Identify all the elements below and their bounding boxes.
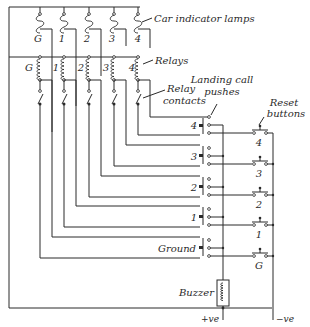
ground-label: Ground (158, 243, 196, 254)
relay-contact-1-switch-icon (62, 80, 67, 227)
negative-terminal-label: −ve (276, 314, 294, 324)
buzzer-label: Buzzer (178, 287, 215, 298)
landing-push-1[interactable] (199, 207, 252, 226)
lamp-label: G (34, 33, 42, 44)
positive-bus (217, 125, 229, 320)
landing-call-label-line2: pushes (204, 86, 239, 97)
relay-3-coil-icon (111, 56, 126, 82)
push-label: 3 (191, 151, 197, 162)
relay-4-coil-icon (135, 56, 150, 82)
relay-label: 2 (77, 62, 84, 73)
reset-label: 2 (255, 199, 262, 210)
top-bus (9, 7, 272, 308)
reset-button-1[interactable] (252, 217, 273, 227)
relay-2-coil-icon (86, 56, 101, 82)
push-label: 4 (190, 120, 197, 131)
reset-buttons-label-line1: Reset (269, 97, 299, 108)
relay-label: G (25, 62, 33, 73)
landing-push-2[interactable] (199, 177, 252, 196)
relays-label: Relays (154, 55, 188, 66)
relay-g-coil-icon (37, 56, 52, 82)
push-label: 1 (191, 212, 197, 223)
reset-buttons (252, 125, 274, 320)
landing-push-ground[interactable] (199, 238, 252, 257)
relay-label: 3 (103, 62, 109, 73)
landing-push-4[interactable] (199, 116, 252, 135)
relay-label: 4 (128, 62, 135, 73)
reset-label: 4 (255, 137, 262, 148)
positive-terminal-label: +ve (201, 314, 219, 324)
reset-button-4[interactable] (252, 125, 273, 135)
relay-1-coil-icon (61, 56, 76, 82)
relay-contact-3-switch-icon (112, 80, 117, 166)
reset-button-3[interactable] (252, 156, 273, 166)
relay-contact-4-switch-icon (136, 80, 141, 135)
landing-call-pushes (199, 116, 252, 258)
reset-button-g[interactable] (252, 248, 273, 258)
reset-label: 3 (256, 168, 262, 179)
relay-contacts-label-line2: contacts (163, 95, 206, 106)
landing-push-3[interactable] (199, 146, 252, 165)
elevator-call-circuit-diagram: G 1 2 3 4 (0, 0, 310, 327)
relay-contact-2-switch-icon (87, 80, 92, 197)
relay-label: 1 (53, 62, 59, 73)
reset-buttons-label-line2: buttons (267, 108, 305, 119)
reset-label: 1 (256, 229, 262, 240)
relay-contact-g-switch-icon (38, 80, 43, 258)
reset-label: G (255, 260, 263, 271)
lamp-label: 1 (59, 33, 65, 44)
reset-button-2[interactable] (252, 187, 273, 197)
lamp-label: 2 (83, 33, 90, 44)
push-label: 2 (190, 182, 197, 193)
car-indicator-lamps-label: Car indicator lamps (154, 13, 255, 24)
lamp-label: 3 (109, 33, 115, 44)
landing-call-label-line1: Landing call (190, 74, 254, 85)
lamp-label: 4 (134, 33, 141, 44)
